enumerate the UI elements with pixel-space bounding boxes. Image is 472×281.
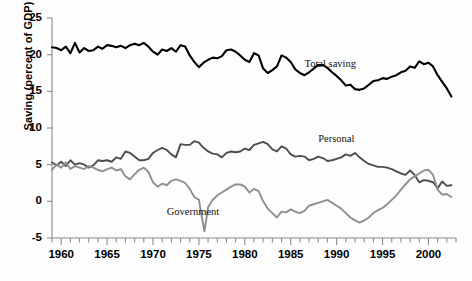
y-tick-label: 10: [10, 121, 42, 133]
series-line-total-saving: [52, 43, 451, 97]
x-tick-label: 1965: [84, 248, 130, 260]
x-tick-label: 1995: [360, 248, 406, 260]
y-tick-label: 20: [10, 48, 42, 60]
y-tick-label: 15: [10, 84, 42, 96]
x-tick-label: 1975: [176, 248, 222, 260]
series-label-government: Government: [167, 206, 220, 217]
x-tick-label: 1970: [130, 248, 176, 260]
x-tick-label: 1990: [314, 248, 360, 260]
y-tick-label: 5: [10, 158, 42, 170]
y-tick-label: 0: [10, 194, 42, 206]
series-line-government: [52, 162, 451, 231]
figure-panel: Saving (percent of GDP) 2520151050-51960…: [0, 0, 472, 281]
x-tick-label: 1985: [268, 248, 314, 260]
y-tick-label: -5: [10, 231, 42, 243]
y-tick-label: 25: [10, 11, 42, 23]
series-label-total-saving: Total saving: [305, 58, 356, 69]
series-label-personal: Personal: [318, 133, 354, 144]
x-tick-label: 2000: [405, 248, 451, 260]
x-tick-label: 1960: [38, 248, 84, 260]
x-tick-label: 1980: [222, 248, 268, 260]
chart-plot-area: [0, 0, 472, 281]
series-line-personal: [52, 141, 451, 188]
